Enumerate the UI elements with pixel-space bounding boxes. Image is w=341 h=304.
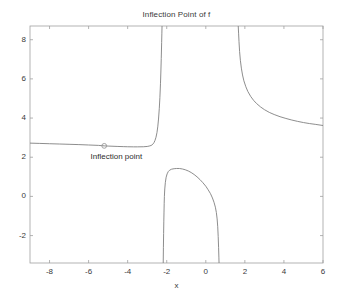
y-tick: 0 bbox=[8, 192, 26, 200]
y-tick: -2 bbox=[8, 232, 26, 240]
y-tick-label: 4 bbox=[22, 114, 26, 122]
y-tick-label: 2 bbox=[22, 153, 26, 161]
f-branch-middle bbox=[163, 168, 219, 263]
y-tick-label: 0 bbox=[22, 192, 26, 200]
function-curves bbox=[30, 26, 323, 263]
x-tick-label: 4 bbox=[272, 268, 296, 276]
x-tick-label: 6 bbox=[311, 268, 335, 276]
y-tick-label: 8 bbox=[22, 36, 26, 44]
y-tick: 6 bbox=[8, 75, 26, 83]
f-branch-right bbox=[238, 26, 323, 126]
y-tick: 2 bbox=[8, 153, 26, 161]
x-axis-tick-labels: -8-6-4-20246 bbox=[0, 268, 341, 278]
y-tick: 8 bbox=[8, 36, 26, 44]
x-tick-label: -2 bbox=[155, 268, 179, 276]
x-tick-label: -6 bbox=[77, 268, 101, 276]
inflection-point-label: Inflection point bbox=[91, 152, 143, 161]
y-tick: 4 bbox=[8, 114, 26, 122]
x-tick-label: -4 bbox=[116, 268, 140, 276]
figure-canvas: Inflection Point of f -202468 -8-6-4-202… bbox=[0, 0, 341, 304]
y-tick-label: 6 bbox=[22, 75, 26, 83]
f-branch-left bbox=[30, 26, 162, 147]
y-tick-label: -2 bbox=[19, 232, 26, 240]
x-tick-label: 2 bbox=[233, 268, 257, 276]
x-tick-label: -8 bbox=[38, 268, 62, 276]
x-axis-label: x bbox=[30, 281, 323, 290]
plot-axes bbox=[0, 0, 341, 304]
x-tick-label: 0 bbox=[194, 268, 218, 276]
